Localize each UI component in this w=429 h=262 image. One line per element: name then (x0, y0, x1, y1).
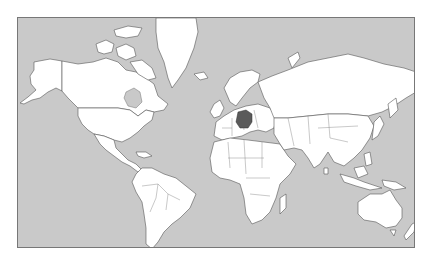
usa (78, 108, 154, 142)
madagascar (280, 194, 286, 214)
africa (210, 138, 296, 224)
sri-lanka (324, 168, 328, 174)
arctic-islands-2 (116, 44, 136, 60)
uk-ireland (210, 100, 224, 118)
world-map (17, 17, 415, 248)
oceania (358, 190, 415, 240)
south-america-mainland (132, 168, 196, 248)
new-guinea (382, 180, 406, 190)
iceland (194, 72, 208, 80)
borneo (354, 166, 368, 178)
caribbean (136, 152, 152, 158)
germany-highlight (236, 110, 252, 128)
australia (358, 190, 402, 228)
new-zealand (404, 222, 415, 240)
philippines (364, 152, 372, 166)
tasmania (390, 230, 396, 236)
north-america (20, 18, 208, 172)
scandinavia (224, 70, 260, 106)
south-america (132, 168, 196, 248)
japan (372, 116, 384, 140)
arctic-islands-3 (114, 26, 142, 38)
world-map-svg (18, 18, 415, 248)
canada (62, 58, 168, 116)
arctic-islands-1 (96, 40, 114, 54)
alaska (20, 59, 62, 104)
greenland (156, 18, 198, 88)
